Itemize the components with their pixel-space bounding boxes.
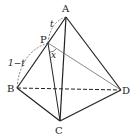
label-D: D (122, 85, 130, 96)
label-P: P (40, 34, 47, 45)
label-B: B (7, 83, 14, 94)
label-1-minus-t: 1−t (8, 58, 25, 68)
edge-BD-hidden (17, 88, 121, 90)
tetrahedron-diagram: A P B C D t 1−t x (0, 0, 135, 138)
edge-AD (66, 17, 121, 90)
label-C: C (55, 125, 63, 136)
segment-PD (48, 43, 121, 90)
label-t: t (50, 19, 54, 29)
edge-AB (17, 17, 66, 88)
edge-CD (60, 90, 121, 121)
label-x: x (51, 50, 56, 60)
label-A: A (61, 3, 70, 14)
edge-BC (17, 88, 60, 121)
edge-AC (60, 17, 66, 121)
